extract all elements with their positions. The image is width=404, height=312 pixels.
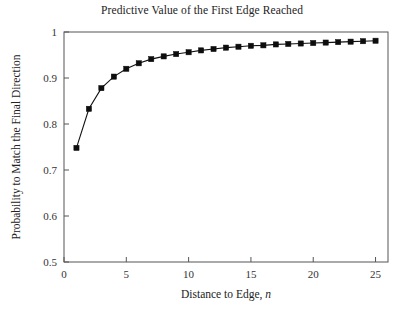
- y-tick-label-1: 0.6: [43, 210, 57, 222]
- chart-plot-area: 0.50.60.70.80.910510152025Distance to Ed…: [0, 0, 404, 312]
- data-point-18: [286, 41, 291, 46]
- data-point-9: [174, 51, 179, 56]
- data-point-15: [248, 43, 253, 48]
- data-point-23: [348, 39, 353, 44]
- data-point-16: [261, 43, 266, 48]
- y-tick-label-5: 1: [52, 26, 58, 38]
- data-point-8: [161, 54, 166, 59]
- data-point-3: [99, 86, 104, 91]
- y-tick-label-0: 0.5: [43, 256, 57, 268]
- data-point-22: [336, 40, 341, 45]
- x-tick-label-4: 20: [308, 268, 320, 280]
- y-tick-label-3: 0.8: [43, 118, 57, 130]
- data-point-2: [86, 106, 91, 111]
- x-tick-label-2: 10: [183, 268, 195, 280]
- y-axis-label: Probability to Match the Final Direction: [10, 54, 23, 239]
- x-tick-label-0: 0: [61, 268, 67, 280]
- data-point-6: [136, 61, 141, 66]
- data-point-13: [223, 45, 228, 50]
- data-point-19: [298, 41, 303, 46]
- data-point-20: [311, 40, 316, 45]
- data-point-17: [273, 42, 278, 47]
- data-point-11: [198, 48, 203, 53]
- axis-labels-group: 0.50.60.70.80.910510152025Distance to Ed…: [10, 26, 382, 301]
- data-point-21: [323, 40, 328, 45]
- data-point-5: [124, 66, 129, 71]
- data-point-4: [111, 74, 116, 79]
- axes-group: [64, 32, 388, 262]
- data-point-14: [236, 44, 241, 49]
- figure-container: Predictive Value of the First Edge Reach…: [0, 0, 404, 312]
- x-tick-label-3: 15: [245, 268, 257, 280]
- data-point-12: [211, 46, 216, 51]
- y-tick-label-4: 0.9: [43, 72, 57, 84]
- data-point-7: [149, 57, 154, 62]
- y-tick-label-2: 0.7: [43, 164, 57, 176]
- data-point-1: [74, 145, 79, 150]
- data-point-25: [373, 38, 378, 43]
- x-tick-label-1: 5: [124, 268, 130, 280]
- data-point-10: [186, 50, 191, 55]
- data-point-24: [360, 39, 365, 44]
- x-axis-label: Distance to Edge, n: [181, 288, 271, 301]
- plot-frame: [64, 32, 388, 262]
- data-line: [76, 41, 375, 148]
- x-tick-label-5: 25: [370, 268, 382, 280]
- data-series-group: [74, 38, 378, 150]
